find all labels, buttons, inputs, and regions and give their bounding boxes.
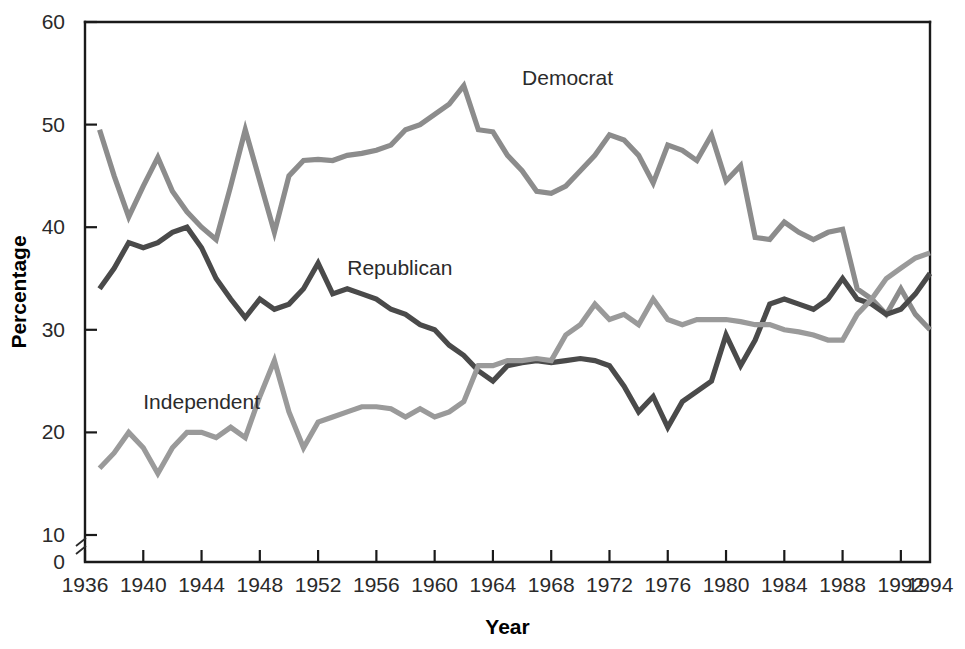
x-tick-label-1940: 1940 [120, 573, 167, 596]
x-tick-label-1956: 1956 [353, 573, 400, 596]
y-tick-label-10: 10 [42, 523, 65, 546]
x-axis-title: Year [485, 615, 529, 638]
y-tick-label-30: 30 [42, 318, 65, 341]
y-tick-label-50: 50 [42, 113, 65, 136]
chart-container: 0102030405060193619401944194819521956196… [0, 0, 965, 649]
series-label-republican: Republican [347, 256, 452, 279]
chart-tick-labels: 0102030405060193619401944194819521956196… [42, 10, 954, 596]
x-tick-label-1984: 1984 [761, 573, 808, 596]
x-tick-label-1948: 1948 [236, 573, 283, 596]
y-tick-label-40: 40 [42, 215, 65, 238]
x-tick-label-1964: 1964 [470, 573, 517, 596]
party-identification-line-chart: 0102030405060193619401944194819521956196… [0, 0, 965, 649]
y-tick-label-60: 60 [42, 10, 65, 33]
chart-axes [76, 22, 930, 562]
x-tick-label-1972: 1972 [586, 573, 633, 596]
x-tick-label-1968: 1968 [528, 573, 575, 596]
y-tick-label-0: 0 [53, 550, 65, 573]
x-tick-label-1980: 1980 [703, 573, 750, 596]
x-tick-label-1960: 1960 [411, 573, 458, 596]
x-tick-label-1988: 1988 [819, 573, 866, 596]
x-tick-label-1976: 1976 [644, 573, 691, 596]
y-axis-title: Percentage [7, 235, 30, 348]
x-tick-label-1944: 1944 [178, 573, 225, 596]
series-label-democrat: Democrat [522, 66, 613, 89]
x-tick-label-1994: 1994 [907, 573, 954, 596]
x-tick-label-1936: 1936 [62, 573, 109, 596]
axis-frame [85, 22, 930, 562]
chart-series-group [100, 86, 930, 474]
chart-ticks [85, 22, 901, 562]
y-tick-label-20: 20 [42, 420, 65, 443]
x-tick-label-1952: 1952 [295, 573, 342, 596]
series-label-independent: Independent [143, 390, 260, 413]
